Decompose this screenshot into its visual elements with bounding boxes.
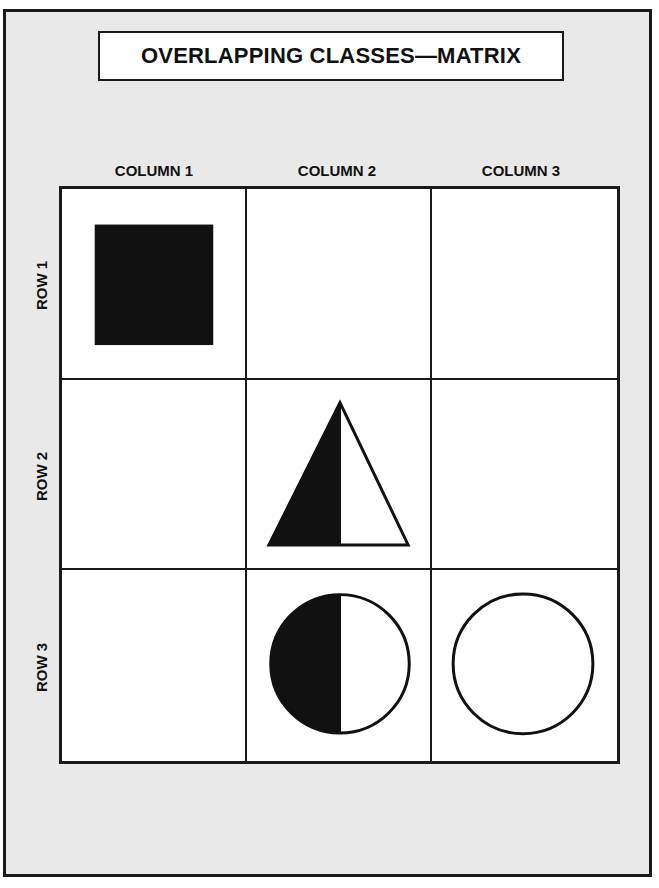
column-label-3: COLUMN 3 [428,162,614,179]
cell-r2-c3 [432,380,617,571]
column-label-1: COLUMN 1 [61,162,247,179]
cell-r3-c1 [62,570,247,761]
row-label-2: ROW 2 [22,380,62,572]
row-label-1: ROW 1 [22,189,62,381]
row-label-3: ROW 3 [22,571,62,763]
half-filled-circle-icon [247,570,430,761]
cell-r1-c2 [247,189,432,380]
cell-r3-c3 [432,570,617,761]
cell-r1-c3 [432,189,617,380]
title-box: OVERLAPPING CLASSES—MATRIX [98,31,564,81]
cell-r3-c2 [247,570,432,761]
column-label-2: COLUMN 2 [244,162,430,179]
empty-circle-icon [432,570,617,761]
cell-r1-c1 [62,189,247,380]
half-filled-triangle-icon [247,380,430,569]
cell-r2-c1 [62,380,247,571]
diagram-title: OVERLAPPING CLASSES—MATRIX [141,43,521,69]
black-square-icon [62,189,245,378]
cell-r2-c2 [247,380,432,571]
matrix-grid [59,186,620,764]
